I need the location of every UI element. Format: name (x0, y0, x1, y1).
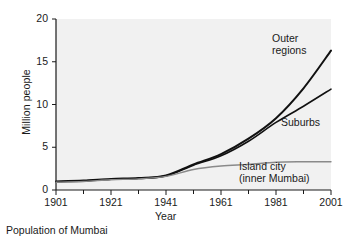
x-axis-title: Year (155, 210, 176, 222)
x-tick-label: 1981 (256, 197, 296, 208)
series-label-island-city: Island city (inner Mumbai) (239, 161, 310, 184)
x-tick-label: 1941 (146, 197, 186, 208)
x-tick-label: 1901 (36, 197, 76, 208)
y-tick-label: 15 (22, 56, 48, 67)
population-chart-figure: Million people 05101520 1901192119411961… (0, 0, 347, 245)
y-tick-label: 10 (22, 99, 48, 110)
x-tick-label: 1921 (91, 197, 131, 208)
x-tick-label: 2001 (311, 197, 347, 208)
y-tick-label: 0 (22, 184, 48, 195)
y-tick-label: 20 (22, 13, 48, 24)
series-label-outer-regions: Outer regions (272, 33, 306, 56)
x-tick-label: 1961 (201, 197, 241, 208)
figure-caption: Population of Mumbai (6, 224, 108, 236)
y-tick-label: 5 (22, 141, 48, 152)
series-label-suburbs: Suburbs (281, 117, 320, 129)
x-axis-minor-ticks (84, 190, 304, 194)
